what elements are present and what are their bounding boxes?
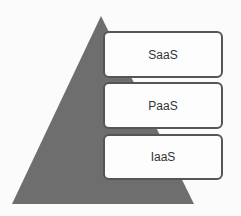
layer-box-paas: PaaS xyxy=(103,82,223,129)
cloud-service-pyramid-diagram: SaaS PaaS IaaS xyxy=(0,0,241,216)
layer-box-iaas: IaaS xyxy=(103,134,223,180)
layer-label-iaas: IaaS xyxy=(151,150,176,164)
layer-box-saas: SaaS xyxy=(103,31,223,78)
layer-label-paas: PaaS xyxy=(148,99,177,113)
layer-label-saas: SaaS xyxy=(148,48,177,62)
